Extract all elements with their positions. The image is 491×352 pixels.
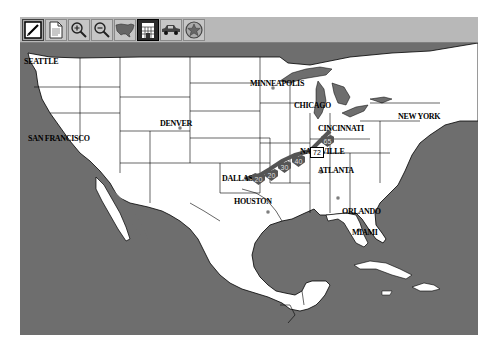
city-label-seattle: SEATTLE [24,58,58,66]
zoom-in-button[interactable] [68,19,90,41]
building-button[interactable] [137,19,159,41]
usa-map-icon [115,22,135,38]
city-label-miami: MIAMI [352,229,378,237]
map-toolbar [20,17,478,43]
city-label-cincinnati: CINCINNATI [318,125,364,133]
car-button[interactable] [160,19,182,41]
car-icon [161,23,181,37]
usa-map-button[interactable] [114,19,136,41]
city-label-houston: HOUSTON [234,198,272,206]
city-label-denver: DENVER [160,120,192,128]
city-label-minneapolis: MINNEAPOLIS [250,80,304,88]
edit-button[interactable] [22,19,44,41]
building-icon [140,21,156,39]
city-label-chicago: CHICAGO [294,102,331,110]
route-number-box[interactable]: 72 [310,147,324,158]
land-jamaica [382,291,392,295]
city-label-dallas: DALLAS [222,175,253,183]
city-label-atlanta: ATLANTA [318,167,354,175]
zoom-in-icon [70,21,88,39]
city-label-new-york: NEW YORK [398,113,440,121]
document-button[interactable] [45,19,67,41]
badge-button[interactable] [183,19,205,41]
map-geography [20,43,478,335]
zoom-out-button[interactable] [91,19,113,41]
zoom-out-icon [93,21,111,39]
city-label-san-francisco: SAN FRANCISCO [28,135,90,143]
document-icon [48,21,64,39]
star-badge-icon [185,21,203,39]
city-label-orlando: ORLANDO [342,208,381,216]
map-canvas[interactable]: SEATTLE SAN FRANCISCO DENVER MINNEAPOLIS… [20,43,478,335]
pencil-icon [24,21,42,39]
